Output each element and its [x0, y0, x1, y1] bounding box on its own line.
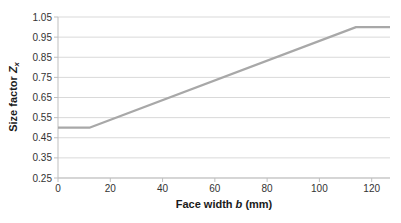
chart-figure: 0.250.350.450.550.650.750.850.951.050204… [0, 0, 401, 223]
x-axis-title: Face width b (mm) [176, 199, 273, 210]
y-tick-label-0.25: 0.25 [33, 173, 53, 184]
y-axis-title-part-1: Z [7, 66, 19, 73]
x-tick-label-120: 120 [363, 183, 380, 194]
y-axis-title-part-0: Size factor [7, 73, 19, 132]
x-axis-title-part-1: b [236, 198, 243, 210]
x-tick-label-60: 60 [209, 183, 221, 194]
y-tick-label-0.35: 0.35 [33, 152, 53, 163]
chart-plot-area: 0.250.350.450.550.650.750.850.951.050204… [0, 0, 401, 223]
x-axis-title-part-2: (mm) [242, 198, 272, 210]
x-tick-label-80: 80 [262, 183, 274, 194]
y-tick-label-0.45: 0.45 [33, 132, 53, 143]
y-axis-title: Size factor Zx [8, 62, 21, 132]
x-tick-label-100: 100 [311, 183, 328, 194]
y-tick-label-0.55: 0.55 [33, 112, 53, 123]
y-axis-title-part-2: x [12, 62, 21, 66]
y-tick-label-0.95: 0.95 [33, 32, 53, 43]
x-tick-label-40: 40 [157, 183, 169, 194]
x-tick-label-20: 20 [105, 183, 117, 194]
x-axis-title-part-0: Face width [176, 198, 236, 210]
y-tick-label-0.75: 0.75 [33, 72, 53, 83]
y-tick-label-0.85: 0.85 [33, 52, 53, 63]
x-tick-label-0: 0 [55, 183, 61, 194]
y-tick-label-1.05: 1.05 [33, 12, 53, 23]
y-tick-label-0.65: 0.65 [33, 92, 53, 103]
